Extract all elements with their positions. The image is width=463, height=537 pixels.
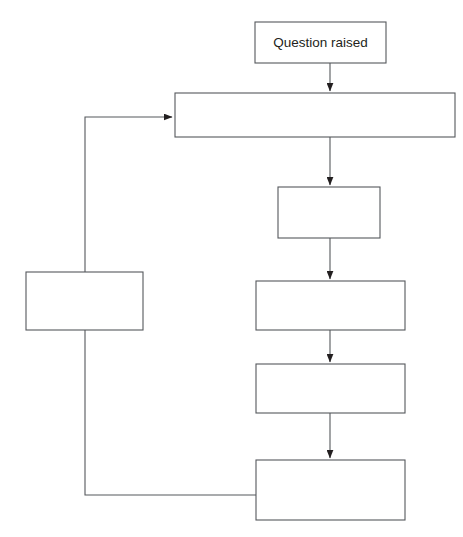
node-box-stage-4[interactable]: [256, 281, 405, 330]
node-box-feedback-stage[interactable]: [26, 272, 143, 330]
node-box-stage-6[interactable]: [256, 460, 405, 520]
flowchart-diagram: Question raised: [0, 0, 463, 537]
nodes-layer: Question raised: [26, 22, 455, 520]
node-stage-4[interactable]: [256, 281, 405, 330]
node-stage-5[interactable]: [256, 364, 405, 413]
node-feedback-stage[interactable]: [26, 272, 143, 330]
node-question-raised[interactable]: Question raised: [255, 22, 386, 63]
flowchart-canvas: Question raised: [0, 0, 463, 537]
node-box-stage-5[interactable]: [256, 364, 405, 413]
node-stage-2[interactable]: [175, 93, 455, 137]
node-stage-6[interactable]: [256, 460, 405, 520]
node-stage-3[interactable]: [278, 187, 380, 238]
node-box-stage-3[interactable]: [278, 187, 380, 238]
node-box-stage-2[interactable]: [175, 93, 455, 137]
node-label-question-raised: Question raised: [273, 35, 368, 50]
